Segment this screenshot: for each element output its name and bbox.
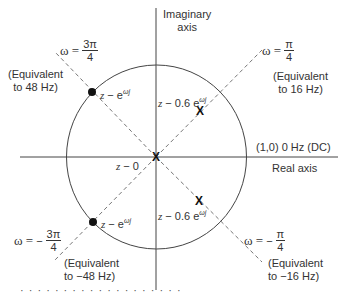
equiv-16hz: (Equivalent to 16 Hz): [273, 70, 328, 96]
zero-label-upper: z − eωj: [100, 85, 130, 102]
imaginary-axis-label-line2: axis: [163, 21, 211, 34]
imaginary-axis-label: Imaginary axis: [163, 8, 211, 34]
equiv-line2: to −16 Hz): [268, 270, 323, 283]
zero-dot-lower: [89, 218, 97, 226]
zero-label-lower: z − eωj: [101, 214, 131, 231]
equiv-line1: (Equivalent: [64, 257, 119, 270]
omega-3pi-over-4: ω = 3π4: [60, 38, 98, 63]
ray-3pi-over-4: [55, 52, 156, 157]
equiv-line2: to 48 Hz): [8, 81, 63, 94]
zero-dot-upper: [88, 88, 96, 96]
sign: −: [36, 235, 42, 247]
pole-label-origin: z − 0: [116, 160, 139, 173]
real-axis-label: Real axis: [272, 162, 317, 175]
omega-neg-3pi-over-4: ω = − 3π4: [14, 228, 61, 253]
caption-text: · · · · · · · · · · · · · · · · · · ·: [20, 290, 260, 297]
exponent: ωj: [123, 88, 130, 95]
label-text: − e: [105, 218, 124, 230]
denominator: 4: [277, 241, 283, 253]
exponent: ωj: [199, 209, 206, 216]
label-text: − 0: [120, 160, 139, 172]
omega-pi-over-4: ω = π4: [262, 38, 294, 63]
numerator: π: [284, 38, 294, 51]
omega-symbol: ω =: [262, 43, 281, 59]
label-text: − e: [104, 89, 123, 101]
pole-marker-origin: X: [152, 151, 160, 164]
ray-neg-3pi-over-4: [55, 157, 156, 260]
equiv-48hz: (Equivalent to 48 Hz): [8, 68, 63, 94]
equiv-line1: (Equivalent: [8, 68, 63, 81]
equiv-line2: to 16 Hz): [273, 83, 328, 96]
pole-label-lower: z − 0.6 eωj: [158, 206, 206, 223]
equiv-neg-48hz: (Equivalent to −48 Hz): [64, 257, 119, 283]
equiv-line1: (Equivalent: [268, 257, 323, 270]
sign: −: [266, 235, 272, 247]
cropped-caption: · · · · · · · · · · · · · · · · · · ·: [20, 290, 260, 297]
numerator: π: [276, 228, 286, 241]
omega-symbol: ω =: [14, 233, 33, 249]
omega-symbol: ω =: [244, 233, 263, 249]
omega-neg-pi-over-4: ω = − π4: [244, 228, 285, 253]
denominator: 4: [286, 51, 292, 63]
pole-label-upper: z − 0.6 eωj: [158, 93, 206, 110]
omega-symbol: ω =: [60, 43, 79, 59]
label-text: − 0.6 e: [162, 97, 199, 109]
exponent: ωj: [199, 96, 206, 103]
numerator: 3π: [46, 228, 62, 241]
equiv-neg-16hz: (Equivalent to −16 Hz): [268, 257, 323, 283]
imaginary-axis-label-line1: Imaginary: [163, 8, 211, 21]
equiv-line1: (Equivalent: [273, 70, 328, 83]
denominator: 4: [50, 241, 56, 253]
numerator: 3π: [82, 38, 98, 51]
equiv-line2: to −48 Hz): [64, 270, 119, 283]
exponent: ωj: [124, 217, 131, 224]
denominator: 4: [87, 51, 93, 63]
dc-label: (1,0) 0 Hz (DC): [256, 141, 331, 154]
label-text: − 0.6 e: [162, 210, 199, 222]
